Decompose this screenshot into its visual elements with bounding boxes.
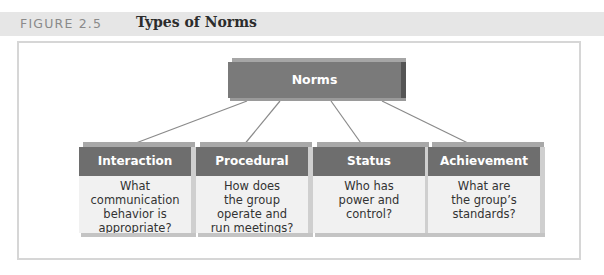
box-bottom	[430, 233, 545, 237]
box-bottom	[315, 233, 430, 237]
box-side	[540, 147, 545, 233]
desc-line: Who has	[313, 179, 425, 193]
interaction-label: Interaction	[79, 147, 191, 176]
desc-line: the group’s	[428, 193, 540, 207]
box-bottom	[230, 98, 406, 101]
box-bottom	[81, 233, 196, 237]
achievement-description: What are the group’s standards?	[428, 176, 540, 233]
desc-line: standards?	[428, 207, 540, 221]
desc-line: How does	[196, 179, 308, 193]
desc-line: control?	[313, 207, 425, 221]
desc-line: What are	[428, 179, 540, 193]
achievement-label: Achievement	[428, 147, 540, 176]
status-label: Status	[313, 147, 425, 176]
norms-label: Norms	[228, 62, 401, 98]
procedural-label: Procedural	[196, 147, 308, 176]
desc-line: power and	[313, 193, 425, 207]
desc-line: communication	[79, 193, 191, 207]
box-bottom	[198, 233, 313, 237]
box-side	[401, 62, 406, 98]
procedural-description: How does the group operate and run meeti…	[196, 176, 308, 233]
status-description: Who has power and control?	[313, 176, 425, 233]
desc-line: What	[79, 179, 191, 193]
desc-line: behavior is	[79, 207, 191, 221]
desc-line: operate and	[196, 207, 308, 221]
desc-line: the group	[196, 193, 308, 207]
interaction-description: What communication behavior is appropria…	[79, 176, 191, 233]
